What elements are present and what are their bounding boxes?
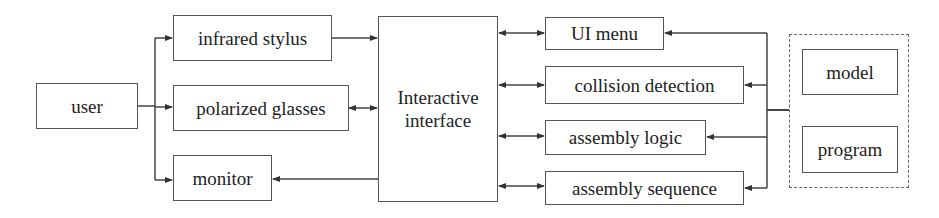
node-program-label: program <box>818 138 882 161</box>
node-collision-detection: collision detection <box>545 66 744 104</box>
node-interactive-interface: Interactive interface <box>378 16 498 202</box>
node-monitor: monitor <box>173 155 272 201</box>
node-assembly-sequence-label: assembly sequence <box>572 177 717 200</box>
node-infrared-stylus: infrared stylus <box>173 15 332 61</box>
node-polarized-glasses: polarized glasses <box>173 85 349 131</box>
node-interactive-interface-label: Interactive interface <box>387 86 489 132</box>
node-model: model <box>802 49 898 95</box>
node-user: user <box>36 83 138 129</box>
node-model-label: model <box>826 61 874 84</box>
node-user-label: user <box>71 95 103 118</box>
node-assembly-sequence: assembly sequence <box>545 171 744 205</box>
node-assembly-logic-label: assembly logic <box>569 126 682 149</box>
node-ui-menu-label: UI menu <box>571 22 638 45</box>
node-program: program <box>802 126 898 173</box>
node-ui-menu: UI menu <box>545 17 664 50</box>
node-monitor-label: monitor <box>192 167 252 190</box>
node-collision-detection-label: collision detection <box>575 74 715 97</box>
node-polarized-glasses-label: polarized glasses <box>196 97 325 120</box>
node-infrared-stylus-label: infrared stylus <box>198 27 307 50</box>
node-assembly-logic: assembly logic <box>545 120 706 155</box>
